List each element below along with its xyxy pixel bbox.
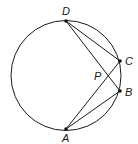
point-B xyxy=(118,89,122,93)
points xyxy=(64,19,122,131)
label-B: B xyxy=(125,86,132,98)
point-C xyxy=(118,59,122,63)
point-D xyxy=(64,19,68,23)
chord-AC xyxy=(66,61,120,129)
chord-DC xyxy=(66,21,120,61)
label-D: D xyxy=(62,5,70,17)
circle xyxy=(11,21,121,131)
label-C: C xyxy=(125,55,133,67)
label-P: P xyxy=(94,70,102,82)
chord-DB xyxy=(66,21,120,91)
label-A: A xyxy=(61,132,69,144)
circle-chord-diagram: DCBAP xyxy=(0,0,138,144)
chords xyxy=(66,21,120,129)
point-A xyxy=(64,127,68,131)
